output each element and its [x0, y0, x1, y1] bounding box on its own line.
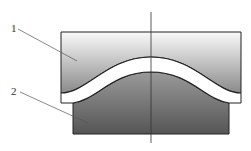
label-part-2: 2 — [11, 85, 17, 97]
label-part-1: 1 — [11, 22, 17, 34]
cross-section-diagram: 1 2 — [0, 0, 251, 151]
